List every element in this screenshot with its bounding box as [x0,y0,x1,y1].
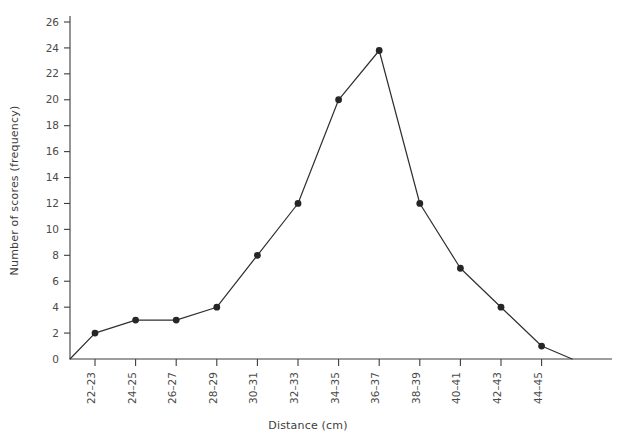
series-marker-group [92,47,545,349]
chart-canvas: 02468101214161820222426 22–2324–2526–272… [0,0,622,443]
y-tick-label: 10 [46,223,59,235]
x-axis-title-container: Distance (cm) [0,419,622,432]
data-point-marker [335,96,342,103]
x-tick-label: 28–29 [207,372,219,404]
y-tick-label: 4 [52,301,59,313]
y-tick-label: 24 [46,42,60,54]
y-tick-label: 22 [46,67,59,79]
x-tick-label: 26–27 [166,372,178,404]
x-tick-label-group: 22–2324–2526–2728–2930–3132–3334–3536–37… [85,372,544,404]
data-point-marker [498,304,505,311]
y-tick-label: 20 [46,93,59,105]
data-point-marker [376,47,383,54]
y-tick-label: 14 [46,171,60,183]
y-tick-label: 18 [46,119,59,131]
x-tick-label: 38–39 [410,372,422,404]
data-point-marker [92,330,99,337]
x-tick-label: 36–37 [369,372,381,404]
data-point-marker [132,317,139,324]
data-point-marker [416,200,423,207]
y-tick-label: 8 [52,249,59,261]
data-point-marker [295,200,302,207]
x-axis-title: Distance (cm) [268,419,348,432]
y-tick-label: 26 [46,16,60,28]
series-line [70,51,572,360]
data-point-marker [213,304,220,311]
data-point-marker [538,343,545,350]
y-tick-label: 6 [52,275,59,287]
x-tick-label: 34–35 [329,372,341,404]
y-tick-label: 0 [52,353,59,365]
x-tick-mark-group [95,359,542,366]
x-tick-label: 32–33 [288,372,300,404]
y-tick-label: 12 [46,197,59,209]
y-tick-label: 2 [52,327,59,339]
x-tick-label: 42–43 [491,372,503,404]
x-tick-label: 30–31 [247,372,259,404]
y-tick-label: 16 [46,145,60,157]
y-tick-label-group: 02468101214161820222426 [46,16,60,365]
x-tick-label: 24–25 [126,372,138,404]
data-point-marker [173,317,180,324]
data-point-marker [254,252,261,259]
x-tick-label: 44–45 [532,372,544,404]
y-tick-mark-group [64,22,70,333]
x-tick-label: 40–41 [450,372,462,404]
x-tick-label: 22–23 [85,372,97,404]
data-point-marker [457,265,464,272]
frequency-polygon-chart: Number of scores (frequency) 02468101214… [0,0,622,443]
